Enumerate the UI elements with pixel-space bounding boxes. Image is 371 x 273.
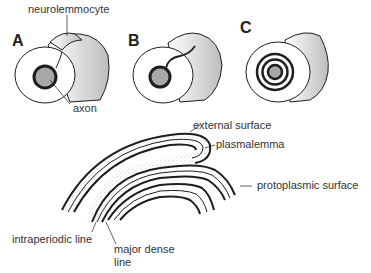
label-plasmalemma: plasmalemma (216, 138, 284, 150)
panel-label-c: C (240, 20, 252, 36)
label-major-dense-line-2: line (114, 256, 131, 268)
panel-b-cell (133, 33, 222, 103)
panel-label-b: B (128, 33, 140, 49)
label-major-dense-line: major dense (114, 243, 175, 255)
label-intraperiodic-line: intraperiodic line (12, 233, 92, 245)
label-protoplasmic-surface: protoplasmic surface (257, 179, 359, 191)
panel-a-cell (15, 15, 109, 104)
panel-c-cell (246, 33, 328, 102)
panel-label-a: A (12, 33, 24, 49)
label-axon: axon (73, 102, 97, 114)
label-neurolemmocyte: neurolemmocyte (28, 3, 109, 15)
label-external-surface: external surface (193, 119, 271, 131)
